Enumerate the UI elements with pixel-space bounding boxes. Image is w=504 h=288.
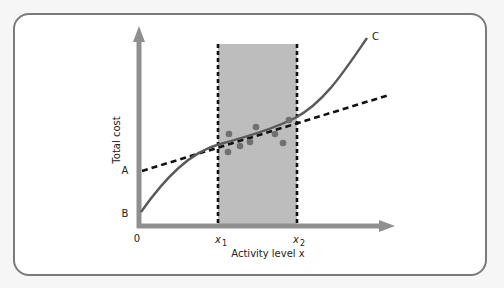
observation-point [280, 140, 287, 147]
x2-label: x [292, 234, 299, 245]
observation-point [253, 124, 260, 131]
observation-point [226, 131, 233, 138]
observation-point [247, 139, 254, 146]
label-a: A [122, 165, 129, 176]
y-axis-arrow-icon [133, 26, 145, 42]
x1-label: x [214, 234, 221, 245]
label-b: B [122, 208, 129, 219]
label-c: C [372, 31, 379, 42]
observation-point [225, 149, 232, 156]
observation-point [286, 117, 293, 124]
observation-point [237, 143, 244, 150]
x1-subscript: 1 [222, 239, 227, 248]
x-axis-arrow-icon [379, 220, 395, 232]
x2-subscript: 2 [300, 239, 305, 248]
origin-label: 0 [134, 233, 140, 244]
cost-diagram: Total cost A B C 0 x 1 x 2 Activity leve… [0, 0, 504, 288]
observation-point [272, 131, 279, 138]
y-axis-label: Total cost [111, 116, 122, 164]
x-axis-label: Activity level x [231, 248, 305, 259]
diagram-stage: Total cost A B C 0 x 1 x 2 Activity leve… [0, 0, 504, 288]
